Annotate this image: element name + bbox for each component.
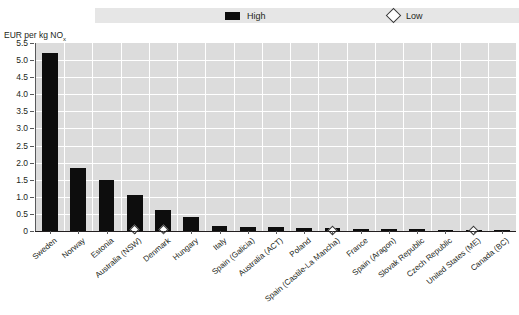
gridline-vertical [290, 43, 291, 231]
gridline-horizontal [36, 163, 516, 164]
x-axis-category-label: France [345, 236, 370, 259]
x-axis-tick [220, 231, 221, 234]
y-axis-title-subscript: x [63, 36, 66, 42]
y-axis-tick [30, 214, 34, 215]
x-axis-category-label: Norway [61, 236, 88, 260]
gridline-vertical [262, 43, 263, 231]
x-axis-category-label: Hungary [171, 236, 200, 262]
legend-label-low: Low [406, 11, 423, 21]
y-axis-tick [30, 128, 34, 129]
x-axis-tick [50, 231, 51, 234]
y-axis-tick-label: 4.5 [16, 73, 28, 82]
y-axis-tick-label: 1.5 [16, 175, 28, 184]
gridline-vertical [64, 43, 65, 231]
y-axis-tick [30, 180, 34, 181]
gridline-vertical [205, 43, 206, 231]
bar [183, 217, 199, 231]
y-axis-tick-labels: 5.55.04.54.03.53.02.52.01.51.00.50 [0, 43, 34, 231]
gridline-vertical [347, 43, 348, 231]
x-axis-tick [417, 231, 418, 234]
plot-frame [36, 43, 516, 231]
x-axis-tick [163, 231, 164, 234]
y-axis-tick-label: 3.5 [16, 107, 28, 116]
legend-swatch-high-icon [225, 12, 240, 20]
x-axis-category-label: Denmark [141, 236, 172, 264]
x-axis-category-label: Poland [288, 236, 313, 259]
y-axis-tick [30, 43, 34, 44]
y-axis-tick [30, 94, 34, 95]
y-axis-tick-label: 3.0 [16, 124, 28, 133]
gridline-vertical [149, 43, 150, 231]
gridline-vertical [92, 43, 93, 231]
plot-area [36, 43, 516, 231]
legend-label-high: High [247, 11, 266, 21]
y-axis-tick [30, 77, 34, 78]
y-axis-tick-label: 1.0 [16, 193, 28, 202]
x-axis-category-label: Sweden [31, 236, 59, 261]
y-axis-tick [30, 231, 34, 232]
gridline-vertical [403, 43, 404, 231]
y-axis-tick [30, 60, 34, 61]
y-axis-tick-label: 2.5 [16, 141, 28, 150]
x-axis-tick [445, 231, 446, 234]
bar [99, 180, 115, 231]
x-axis-tick [304, 231, 305, 234]
gridline-horizontal [36, 77, 516, 78]
legend-swatch-low-icon [386, 8, 402, 24]
bar [70, 168, 86, 231]
gridline-horizontal [36, 60, 516, 61]
legend-item-high: High [225, 8, 266, 23]
x-axis-category-label: Italy [211, 236, 228, 252]
y-axis-title: EUR per kg NOx [4, 30, 66, 42]
y-axis-tick-label: 2.0 [16, 158, 28, 167]
gridline-vertical [488, 43, 489, 231]
y-axis-tick [30, 197, 34, 198]
gridline-vertical [234, 43, 235, 231]
x-axis-tick [361, 231, 362, 234]
legend-item-low: Low [388, 8, 423, 23]
x-axis-tick [276, 231, 277, 234]
gridline-horizontal [36, 146, 516, 147]
x-axis-tick [248, 231, 249, 234]
y-axis-tick-label: 0 [23, 227, 28, 236]
y-axis-tick [30, 163, 34, 164]
gridline-vertical [375, 43, 376, 231]
x-axis-tick [107, 231, 108, 234]
y-axis-tick [30, 111, 34, 112]
gridline-horizontal [36, 128, 516, 129]
x-axis-tick [502, 231, 503, 234]
x-axis-tick [191, 231, 192, 234]
bar [42, 53, 58, 231]
x-axis-tick [78, 231, 79, 234]
x-axis-tick [389, 231, 390, 234]
gridline-vertical [460, 43, 461, 231]
gridline-horizontal [36, 94, 516, 95]
x-axis-tick [135, 231, 136, 234]
gridline-vertical [121, 43, 122, 231]
gridline-vertical [177, 43, 178, 231]
y-axis-tick-label: 0.5 [16, 210, 28, 219]
y-axis-tick-label: 5.0 [16, 56, 28, 65]
legend-background-band [95, 8, 519, 23]
x-axis-tick [332, 231, 333, 234]
y-axis-tick [30, 146, 34, 147]
gridline-horizontal [36, 111, 516, 112]
y-axis-tick-label: 5.5 [16, 39, 28, 48]
gridline-vertical [431, 43, 432, 231]
x-axis-tick [474, 231, 475, 234]
y-axis-tick-label: 4.0 [16, 90, 28, 99]
gridline-vertical [318, 43, 319, 231]
y-axis-title-main: EUR per kg NO [4, 30, 63, 40]
